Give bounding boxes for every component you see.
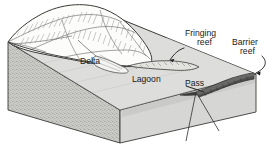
label-barrier-reef-line2: reef — [232, 47, 258, 56]
label-barrier-reef: Barrier reef — [232, 38, 258, 57]
label-fringing-reef: Fringing reef — [185, 29, 216, 48]
barrier-reef-leader — [256, 56, 265, 73]
label-fringing-reef-line2: reef — [185, 38, 216, 47]
label-lagoon: Lagoon — [132, 75, 161, 85]
label-delta: Delta — [80, 57, 100, 67]
label-pass: Pass — [185, 79, 204, 89]
block-diagram-figure: Fringing reef Barrier reef Delta Lagoon … — [0, 0, 280, 157]
